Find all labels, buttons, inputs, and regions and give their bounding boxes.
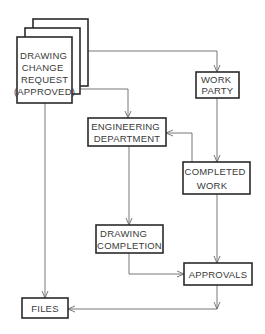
node-engineering-department: ENGINEERING DEPARTMENT — [88, 118, 166, 146]
node-drawing-completion: DRAWING COMPLETION — [96, 225, 163, 253]
edge-completed-work-to-engineering — [166, 133, 192, 162]
drawing-completion-line-2: COMPLETION — [97, 240, 162, 251]
edge-dcr-to-engineering — [80, 89, 128, 118]
node-completed-work: COMPLETED WORK — [183, 162, 250, 194]
completed-work-line-1: COMPLETED — [185, 166, 246, 177]
node-approvals: APPROVALS — [184, 263, 252, 285]
files-label: FILES — [31, 303, 58, 314]
edge-drawing-completion-to-approvals — [129, 253, 184, 274]
svg-text:DRAWING CHANGE REQ: DRAWING CHANGE REQUEST (APPROVED) — [14, 50, 75, 97]
flowchart-diagram: DRAWING CHANGE REQUEST (APPROVED) WORK P… — [0, 0, 265, 334]
completed-work-line-2: WORK — [197, 180, 228, 191]
svg-text:ENGINEERING DEPARTMENT: ENGINEERING DEPARTMENT — [91, 121, 163, 144]
dcr-line-2: CHANGE — [22, 62, 64, 73]
dcr-line-3: REQUEST — [21, 74, 68, 85]
dcr-line-1: DRAWING — [20, 50, 67, 61]
work-party-line-1: WORK — [201, 74, 232, 85]
svg-text:FILES: FILES — [31, 303, 58, 314]
engineering-line-2: DEPARTMENT — [94, 133, 161, 144]
dcr-line-4: (APPROVED) — [14, 86, 75, 97]
work-party-line-2: PARTY — [202, 85, 234, 96]
drawing-completion-line-1: DRAWING — [100, 228, 147, 239]
node-work-party: WORK PARTY — [196, 72, 239, 98]
node-drawing-change-request: DRAWING CHANGE REQUEST (APPROVED) — [14, 19, 88, 103]
svg-text:APPROVALS: APPROVALS — [189, 269, 248, 280]
approvals-label: APPROVALS — [189, 269, 248, 280]
node-files: FILES — [22, 298, 68, 318]
edge-approvals-to-files — [68, 285, 217, 309]
svg-text:WORK PARTY: WORK PARTY — [201, 74, 234, 96]
engineering-line-1: ENGINEERING — [91, 121, 160, 132]
edge-dcr-to-work-party — [88, 51, 217, 72]
